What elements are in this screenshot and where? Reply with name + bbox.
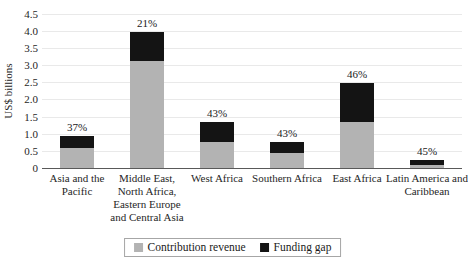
legend-swatch-icon: [134, 243, 143, 252]
x-axis-category-label: Latin America and Caribbean: [386, 172, 468, 198]
bar-percent-label: 21%: [122, 17, 172, 29]
gridline: [42, 99, 462, 100]
bar-percent-label: 45%: [402, 145, 452, 157]
legend-item: Funding gap: [260, 241, 332, 253]
bar-percent-label: 43%: [262, 127, 312, 139]
bar-segment-contribution-revenue: [410, 165, 444, 168]
gridline: [42, 151, 462, 152]
y-axis-tick-label: 1.5: [14, 112, 38, 123]
y-axis-tick-label: 2.0: [14, 94, 38, 105]
bar-segment-contribution-revenue: [130, 61, 164, 168]
legend: Contribution revenueFunding gap: [124, 238, 342, 257]
gridline: [42, 31, 462, 32]
legend-item: Contribution revenue: [134, 241, 246, 253]
bar-segment-funding-gap: [270, 142, 304, 153]
y-axis-tick-label: 0: [14, 163, 38, 174]
bar-segment-funding-gap: [340, 83, 374, 122]
bar-segment-funding-gap: [200, 122, 234, 142]
y-axis-tick-label: 2.5: [14, 77, 38, 88]
gridline: [42, 65, 462, 66]
gridline: [42, 48, 462, 49]
y-axis-tick-label: 0.5: [14, 146, 38, 157]
bar-percent-label: 37%: [52, 121, 102, 133]
bar-percent-label: 43%: [192, 107, 242, 119]
bar-segment-contribution-revenue: [340, 122, 374, 168]
legend-label: Contribution revenue: [148, 241, 246, 253]
y-axis-tick-label: 4.5: [14, 9, 38, 20]
bar-percent-label: 46%: [332, 68, 382, 80]
y-axis-tick-label: 1.0: [14, 129, 38, 140]
bar-segment-funding-gap: [60, 136, 94, 148]
x-axis-line: [42, 168, 462, 169]
y-axis-title: US$ billions: [2, 63, 14, 119]
bar-segment-contribution-revenue: [200, 142, 234, 168]
legend-label: Funding gap: [274, 241, 332, 253]
bar-segment-contribution-revenue: [270, 153, 304, 168]
gridline: [42, 134, 462, 135]
gridline: [42, 82, 462, 83]
y-axis-tick-label: 3.5: [14, 43, 38, 54]
y-axis-tick-label: 4.0: [14, 26, 38, 37]
gridline: [42, 117, 462, 118]
legend-swatch-icon: [260, 243, 269, 252]
bar-segment-funding-gap: [410, 160, 444, 165]
gridline: [42, 14, 462, 15]
bar-segment-funding-gap: [130, 32, 164, 61]
y-axis-tick-label: 3.0: [14, 60, 38, 71]
bar-segment-contribution-revenue: [60, 148, 94, 168]
